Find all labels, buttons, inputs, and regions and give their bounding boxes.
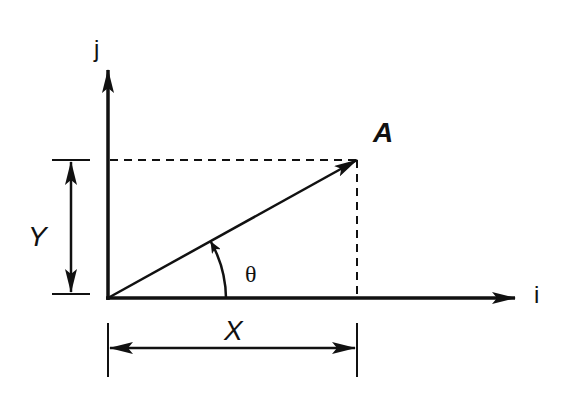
angle-label: θ bbox=[245, 261, 257, 287]
x-component-label: X bbox=[223, 315, 244, 346]
j-axis-label: j bbox=[93, 35, 99, 62]
angle-arc bbox=[211, 242, 226, 298]
diagram-canvas: j i A θ Y X bbox=[0, 0, 565, 398]
i-axis-label: i bbox=[534, 281, 539, 308]
vector-diagram: j i A θ Y X bbox=[0, 0, 565, 398]
y-component-label: Y bbox=[28, 221, 49, 252]
vector-label: A bbox=[372, 117, 393, 148]
vector-a bbox=[108, 160, 357, 298]
